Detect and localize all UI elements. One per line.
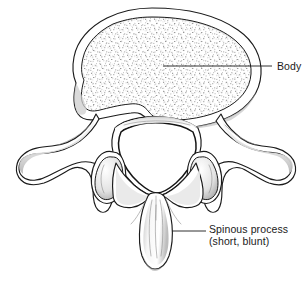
label-spinous-process-line2: (short, blunt) [209,235,269,247]
label-spinous-process-line1: Spinous process [209,223,288,235]
vertebral-body [73,8,261,129]
label-body: Body [277,60,302,72]
vertebra-diagram: Body Spinous process (short, blunt) [0,0,308,284]
vertebra-figure: Body Spinous process (short, blunt) [0,0,308,284]
